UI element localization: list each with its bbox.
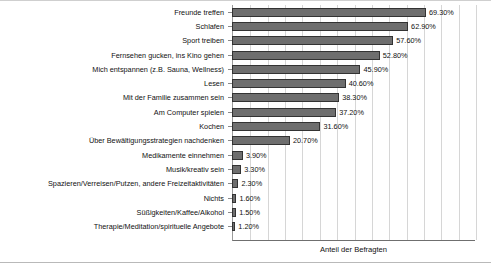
bar-value-label: 3.30%	[244, 165, 265, 174]
category-label: Mich entspannen (z.B. Sauna, Wellness)	[0, 65, 228, 74]
bar-value-label: 69.30%	[429, 8, 454, 17]
category-label: Kochen	[0, 122, 228, 131]
chart-row: Nichts1.60%	[0, 191, 491, 205]
chart-row: Mich entspannen (z.B. Sauna, Wellness)45…	[0, 62, 491, 76]
bar	[232, 194, 236, 203]
bar-value-label: 62.90%	[411, 22, 436, 31]
category-label: Fernsehen gucken, ins Kino gehen	[0, 51, 228, 60]
bar-container: 37.20%	[232, 105, 491, 119]
bar	[232, 208, 236, 217]
category-label: Über Bewältigungsstrategien nachdenken	[0, 136, 228, 145]
bar-container: 3.90%	[232, 148, 491, 162]
bar-value-label: 52.80%	[383, 51, 408, 60]
chart-row: Am Computer spielen37.20%	[0, 105, 491, 119]
bar-chart-figure: Freunde treffen69.30%Schlafen62.90%Sport…	[0, 0, 491, 269]
bar	[232, 93, 339, 102]
x-axis-title: Anteil der Befragten	[232, 245, 475, 254]
bar-rows: Freunde treffen69.30%Schlafen62.90%Sport…	[0, 5, 491, 234]
bar	[232, 65, 360, 74]
bar-value-label: 2.30%	[241, 179, 262, 188]
bar	[232, 179, 238, 188]
bar-container: 40.60%	[232, 76, 491, 90]
bar	[232, 36, 393, 45]
bar-container: 52.80%	[232, 48, 491, 62]
bar-value-label: 3.90%	[246, 151, 267, 160]
chart-row: Freunde treffen69.30%	[0, 5, 491, 19]
chart-row: Fernsehen gucken, ins Kino gehen52.80%	[0, 48, 491, 62]
bar-container: 69.30%	[232, 5, 491, 19]
category-label: Schlafen	[0, 22, 228, 31]
category-label: Sport treiben	[0, 36, 228, 45]
bar-container: 1.20%	[232, 219, 491, 233]
figure-bottom-rule	[0, 262, 491, 263]
chart-row: Spazieren/Verreisen/Putzen, andere Freiz…	[0, 177, 491, 191]
bar-container: 1.50%	[232, 205, 491, 219]
bar-container: 38.30%	[232, 91, 491, 105]
bar	[232, 79, 346, 88]
chart-row: Über Bewältigungsstrategien nachdenken20…	[0, 134, 491, 148]
chart-row: Süßigkeiten/Kaffee/Alkohol1.50%	[0, 205, 491, 219]
category-label: Freunde treffen	[0, 8, 228, 17]
chart-row: Sport treiben57.60%	[0, 34, 491, 48]
bar	[232, 22, 408, 31]
bar-value-label: 1.50%	[239, 208, 260, 217]
bar	[232, 122, 320, 131]
category-label: Mit der Familie zusammen sein	[0, 93, 228, 102]
chart-row: Therapie/Meditation/spirituelle Angebote…	[0, 219, 491, 233]
category-label: Süßigkeiten/Kaffee/Alkohol	[0, 208, 228, 217]
category-label: Nichts	[0, 194, 228, 203]
chart-row: Schlafen62.90%	[0, 19, 491, 33]
category-label: Therapie/Meditation/spirituelle Angebote	[0, 222, 228, 231]
bar-container: 31.60%	[232, 119, 491, 133]
bar-value-label: 37.20%	[339, 108, 364, 117]
bar	[232, 151, 243, 160]
figure-top-rule	[0, 0, 491, 1]
bar-container: 62.90%	[232, 19, 491, 33]
bar	[232, 51, 380, 60]
chart-row: Musik/kreativ sein3.30%	[0, 162, 491, 176]
category-label: Spazieren/Verreisen/Putzen, andere Freiz…	[0, 179, 228, 188]
bar-value-label: 20.70%	[293, 136, 318, 145]
bar-container: 1.60%	[232, 191, 491, 205]
bar-value-label: 45.90%	[363, 65, 388, 74]
category-label: Musik/kreativ sein	[0, 165, 228, 174]
bar-container: 57.60%	[232, 34, 491, 48]
bar	[232, 108, 336, 117]
bar-container: 20.70%	[232, 134, 491, 148]
bar	[232, 8, 426, 17]
bar	[232, 165, 241, 174]
chart-row: Mit der Familie zusammen sein38.30%	[0, 91, 491, 105]
bar	[232, 136, 290, 145]
bar-value-label: 1.20%	[238, 222, 259, 231]
chart-row: Medikamente einnehmen3.90%	[0, 148, 491, 162]
bar-value-label: 40.60%	[349, 79, 374, 88]
bar-value-label: 38.30%	[342, 93, 367, 102]
bar-value-label: 1.60%	[239, 194, 260, 203]
bar-container: 45.90%	[232, 62, 491, 76]
bar-value-label: 31.60%	[323, 122, 348, 131]
chart-row: Lesen40.60%	[0, 76, 491, 90]
bar	[232, 222, 235, 231]
category-label: Medikamente einnehmen	[0, 151, 228, 160]
bar-value-label: 57.60%	[396, 36, 421, 45]
chart-row: Kochen31.60%	[0, 119, 491, 133]
bar-container: 2.30%	[232, 177, 491, 191]
category-label: Lesen	[0, 79, 228, 88]
bar-container: 3.30%	[232, 162, 491, 176]
category-label: Am Computer spielen	[0, 108, 228, 117]
